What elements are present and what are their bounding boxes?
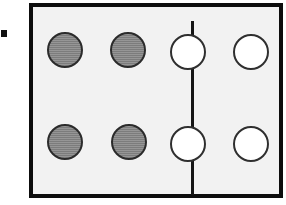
container-rectangle bbox=[29, 3, 283, 198]
filled-circle bbox=[111, 124, 147, 160]
open-circle bbox=[233, 126, 269, 162]
diagram-canvas bbox=[0, 0, 286, 205]
filled-circle bbox=[110, 32, 146, 68]
edge-marker-square bbox=[1, 30, 7, 37]
open-circle bbox=[170, 126, 206, 162]
filled-circle bbox=[47, 124, 83, 160]
open-circle bbox=[233, 34, 269, 70]
open-circle bbox=[170, 34, 206, 70]
filled-circle bbox=[47, 32, 83, 68]
